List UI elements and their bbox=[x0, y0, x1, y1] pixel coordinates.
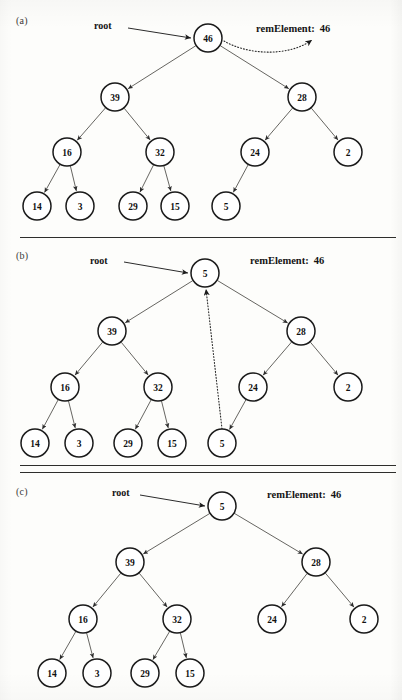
tree-edge bbox=[234, 513, 302, 554]
tree-node[interactable]: 28 bbox=[288, 83, 316, 111]
tree-edge bbox=[263, 342, 291, 375]
tree-node[interactable]: 2 bbox=[350, 605, 378, 633]
tree-node[interactable]: 5 bbox=[212, 192, 240, 220]
tree-node[interactable]: 32 bbox=[146, 138, 174, 166]
tree-node[interactable]: 16 bbox=[53, 138, 81, 166]
tree-node[interactable]: 24 bbox=[258, 605, 286, 633]
node-value-label: 15 bbox=[185, 669, 195, 679]
node-circle bbox=[83, 659, 111, 687]
node-circle bbox=[101, 83, 129, 111]
tree-edge bbox=[139, 573, 167, 607]
tree-node[interactable]: 5 bbox=[191, 259, 219, 287]
node-value-label: 28 bbox=[296, 327, 306, 337]
node-value-label: 14 bbox=[32, 202, 42, 212]
tree-node[interactable]: 32 bbox=[144, 373, 172, 401]
tree-edge bbox=[69, 401, 76, 428]
node-value-label: 16 bbox=[62, 148, 72, 158]
tree-node[interactable]: 28 bbox=[302, 548, 330, 576]
node-circle bbox=[288, 83, 316, 111]
tree-edges bbox=[42, 28, 354, 660]
node-value-label: 32 bbox=[153, 383, 163, 393]
node-circle bbox=[116, 548, 144, 576]
node-value-label: 39 bbox=[125, 558, 135, 568]
tree-node[interactable]: 14 bbox=[21, 429, 49, 457]
tree-node[interactable]: 16 bbox=[51, 373, 79, 401]
tree-node[interactable]: 15 bbox=[158, 429, 186, 457]
tree-edge bbox=[265, 108, 293, 140]
panel-divider bbox=[20, 237, 396, 238]
tree-node[interactable]: 29 bbox=[131, 659, 159, 687]
rem-element-value: 46 bbox=[314, 255, 325, 266]
node-circle bbox=[258, 605, 286, 633]
tree-node[interactable]: 16 bbox=[69, 605, 97, 633]
node-value-label: 28 bbox=[297, 93, 307, 103]
node-value-label: 15 bbox=[167, 439, 177, 449]
tree-edge bbox=[217, 280, 287, 322]
node-circle bbox=[334, 373, 362, 401]
tree-node[interactable]: 2 bbox=[334, 138, 362, 166]
tree-node[interactable]: 39 bbox=[101, 83, 129, 111]
tree-edge bbox=[143, 514, 209, 554]
node-circle bbox=[208, 429, 236, 457]
rem-element-value: 46 bbox=[331, 489, 342, 500]
tree-node[interactable]: 14 bbox=[23, 192, 51, 220]
node-value-label: 39 bbox=[107, 327, 117, 337]
node-circle bbox=[194, 24, 222, 52]
tree-edge bbox=[153, 631, 170, 659]
node-value-label: 2 bbox=[362, 615, 367, 625]
tree-node[interactable]: 32 bbox=[163, 605, 191, 633]
tree-edge bbox=[162, 401, 169, 428]
node-value-label: 32 bbox=[155, 148, 165, 158]
node-circle bbox=[241, 138, 269, 166]
node-circle bbox=[98, 317, 126, 345]
tree-node[interactable]: 3 bbox=[66, 192, 94, 220]
tree-edge bbox=[93, 573, 121, 607]
tree-edge bbox=[60, 632, 76, 660]
tree-edge bbox=[140, 165, 154, 192]
scan-texture bbox=[0, 0, 402, 700]
tree-edge bbox=[310, 342, 338, 375]
node-circle bbox=[350, 605, 378, 633]
node-value-label: 24 bbox=[267, 615, 277, 625]
node-value-label: 28 bbox=[311, 558, 321, 568]
tree-node[interactable]: 14 bbox=[38, 659, 66, 687]
node-circle bbox=[144, 373, 172, 401]
tree-node[interactable]: 15 bbox=[176, 659, 204, 687]
tree-edge bbox=[135, 400, 151, 430]
tree-graphics-layer: 4639281632242143291555392816322421432915… bbox=[0, 0, 402, 700]
node-value-label: 46 bbox=[203, 34, 213, 44]
root-pointer-arrow bbox=[128, 28, 191, 38]
tree-node[interactable]: 24 bbox=[241, 138, 269, 166]
root-label-c: root bbox=[112, 487, 130, 498]
tree-edge bbox=[311, 108, 338, 140]
tree-edge bbox=[121, 342, 148, 375]
tree-node[interactable]: 46 bbox=[194, 24, 222, 52]
node-circle bbox=[163, 605, 191, 633]
tree-node[interactable]: 29 bbox=[114, 429, 142, 457]
node-circle bbox=[51, 373, 79, 401]
rem-element-label-a: remElement:46 bbox=[256, 23, 330, 34]
figure-canvas: 4639281632242143291555392816322421432915… bbox=[0, 0, 402, 700]
tree-edge bbox=[77, 108, 105, 140]
tree-node[interactable]: 39 bbox=[116, 548, 144, 576]
tree-node[interactable]: 39 bbox=[98, 317, 126, 345]
node-circle bbox=[119, 192, 147, 220]
tree-nodes: 4639281632242143291555392816322421432915… bbox=[21, 24, 378, 687]
node-value-label: 24 bbox=[250, 148, 260, 158]
tree-node[interactable]: 28 bbox=[287, 317, 315, 345]
tree-node[interactable]: 15 bbox=[161, 192, 189, 220]
tree-node[interactable]: 5 bbox=[208, 429, 236, 457]
tree-node[interactable]: 29 bbox=[119, 192, 147, 220]
node-value-label: 3 bbox=[78, 202, 83, 212]
tree-node[interactable]: 3 bbox=[65, 429, 93, 457]
node-value-label: 5 bbox=[220, 439, 225, 449]
tree-edge bbox=[124, 108, 150, 140]
node-circle bbox=[21, 429, 49, 457]
tree-node[interactable]: 3 bbox=[83, 659, 111, 687]
promoted-node-dotted-arrow bbox=[206, 289, 222, 429]
tree-node[interactable]: 2 bbox=[334, 373, 362, 401]
tree-edge bbox=[220, 46, 289, 89]
tree-node[interactable]: 5 bbox=[208, 492, 236, 520]
rem-element-dotted-arrow bbox=[224, 40, 312, 52]
tree-node[interactable]: 24 bbox=[239, 373, 267, 401]
